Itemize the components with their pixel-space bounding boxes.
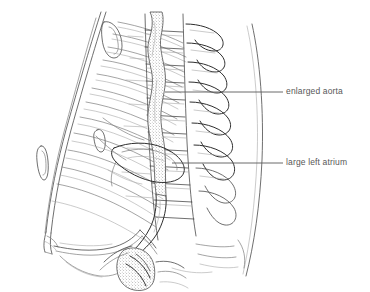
leader-lines <box>165 92 283 163</box>
spinous-processes <box>186 24 236 225</box>
annotation-label-enlarged-aorta: enlarged aorta <box>286 87 343 96</box>
annotation-label-large-left-atrium: large left atrium <box>286 158 347 167</box>
posterior-body-wall <box>243 24 263 276</box>
anatomical-figure: enlarged aorta large left atrium <box>0 0 370 292</box>
line-drawing-canvas <box>0 0 370 292</box>
